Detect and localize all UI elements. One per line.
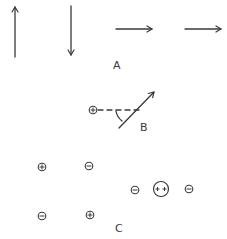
panel-label-b: B [140,121,148,134]
negative-charge-icon [85,162,93,170]
negative-charge-icon [38,212,46,220]
positive-charge-icon [38,163,46,171]
charge-field-diagram: A B [0,0,227,239]
panel-b: B [89,92,154,134]
panel-a: A [15,6,221,72]
angle-arc-icon [116,111,122,121]
negative-charge-icon [185,185,193,193]
panel-c: C [38,162,193,235]
negative-charge-icon [131,186,139,194]
angled-arrow-icon [119,92,154,128]
positive-charge-icon [89,106,97,114]
double-positive-charge-icon [154,182,169,197]
panel-label-c: C [115,222,123,235]
positive-charge-icon [86,211,94,219]
panel-label-a: A [113,59,121,72]
